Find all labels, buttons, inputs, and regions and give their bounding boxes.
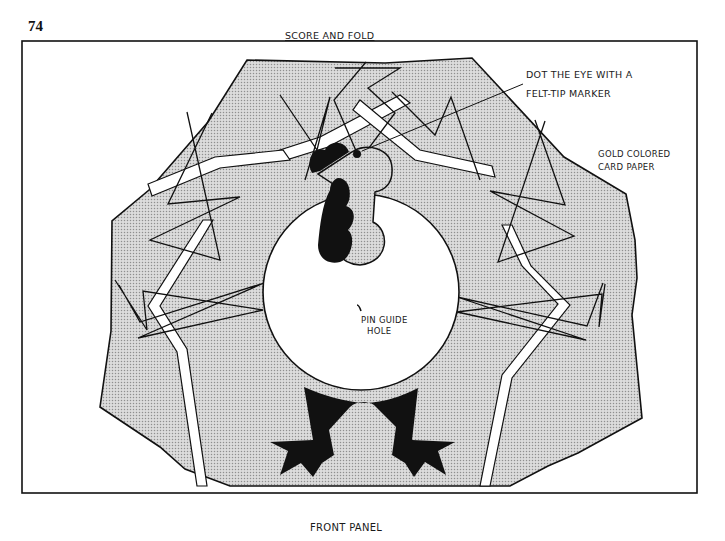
front-panel-label: FRONT PANEL — [310, 522, 382, 533]
pin-guide-line1: PIN GUIDE — [361, 315, 408, 326]
score-and-fold-label: SCORE AND FOLD — [285, 30, 374, 41]
paper-type-line1: GOLD COLORED — [598, 148, 670, 161]
eye-instruction-callout: DOT THE EYE WITH A FELT-TIP MARKER — [526, 65, 632, 103]
eye-instruction-line2: FELT-TIP MARKER — [526, 84, 632, 103]
pin-guide-line2: HOLE — [361, 326, 408, 337]
paper-type-callout: GOLD COLORED CARD PAPER — [598, 148, 670, 174]
eye-instruction-line1: DOT THE EYE WITH A — [526, 65, 632, 84]
pin-guide-hole-callout: PIN GUIDE HOLE — [361, 315, 408, 337]
turkey-eye — [353, 150, 361, 158]
paper-type-line2: CARD PAPER — [598, 161, 670, 174]
